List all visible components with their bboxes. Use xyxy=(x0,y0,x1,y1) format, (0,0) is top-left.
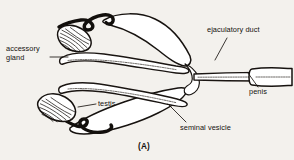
figure-caption: (A) xyxy=(138,142,150,151)
label-penis: penis xyxy=(249,88,267,97)
label-accessory-gland: accessory gland xyxy=(6,45,40,62)
label-testis: testis xyxy=(98,100,116,109)
label-accessory-gland-line2: gland xyxy=(6,54,40,63)
figure-container: accessory gland ejaculatory duct penis t… xyxy=(0,0,294,160)
anatomy-diagram-svg xyxy=(0,0,294,160)
label-ejaculatory-duct: ejaculatory duct xyxy=(207,26,260,35)
label-seminal-vesicle: seminal vesicle xyxy=(180,124,231,133)
